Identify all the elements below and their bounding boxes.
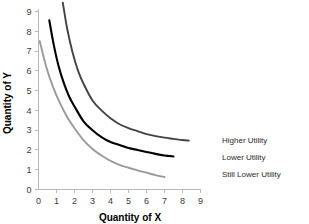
y-tick-label: 2 bbox=[26, 145, 31, 155]
x-tick-labels: 0123456789 bbox=[36, 196, 203, 206]
axes bbox=[39, 9, 201, 190]
series-label-higher-utility: Higher Utility bbox=[222, 136, 267, 145]
y-tick-label: 3 bbox=[26, 125, 31, 135]
x-tick-label: 6 bbox=[144, 196, 149, 206]
x-tick-label: 5 bbox=[126, 196, 131, 206]
x-tick-label: 8 bbox=[180, 196, 185, 206]
y-axis-title: Quantity of Y bbox=[2, 72, 13, 134]
y-tick-label: 6 bbox=[26, 66, 31, 76]
x-tick-label: 3 bbox=[90, 196, 95, 206]
y-tick-label: 1 bbox=[26, 165, 31, 175]
x-tick-label: 9 bbox=[198, 196, 203, 206]
x-tick-label: 4 bbox=[108, 196, 113, 206]
x-tick-label: 1 bbox=[54, 196, 59, 206]
curves bbox=[40, 3, 189, 177]
y-tick-label: 4 bbox=[26, 106, 31, 116]
series-label-still-lower-utility: Still Lower Utility bbox=[222, 170, 281, 179]
series-labels: Higher UtilityLower UtilityStill Lower U… bbox=[222, 136, 281, 179]
y-tick-labels: 0123456789 bbox=[26, 7, 31, 195]
y-tick-label: 8 bbox=[26, 27, 31, 37]
y-tick-label: 5 bbox=[26, 86, 31, 96]
x-axis-title: Quantity of X bbox=[99, 212, 162, 223]
y-tick-label: 0 bbox=[26, 185, 31, 195]
x-tick-label: 0 bbox=[36, 196, 41, 206]
indifference-curve-chart: 0123456789 0123456789 Higher UtilityLowe… bbox=[0, 0, 309, 224]
x-tick-label: 7 bbox=[162, 196, 167, 206]
y-tick-label: 9 bbox=[26, 7, 31, 17]
series-label-lower-utility: Lower Utility bbox=[222, 153, 266, 162]
chart-root: 0123456789 0123456789 Higher UtilityLowe… bbox=[0, 0, 309, 224]
x-tick-label: 2 bbox=[72, 196, 77, 206]
y-tick-label: 7 bbox=[26, 46, 31, 56]
